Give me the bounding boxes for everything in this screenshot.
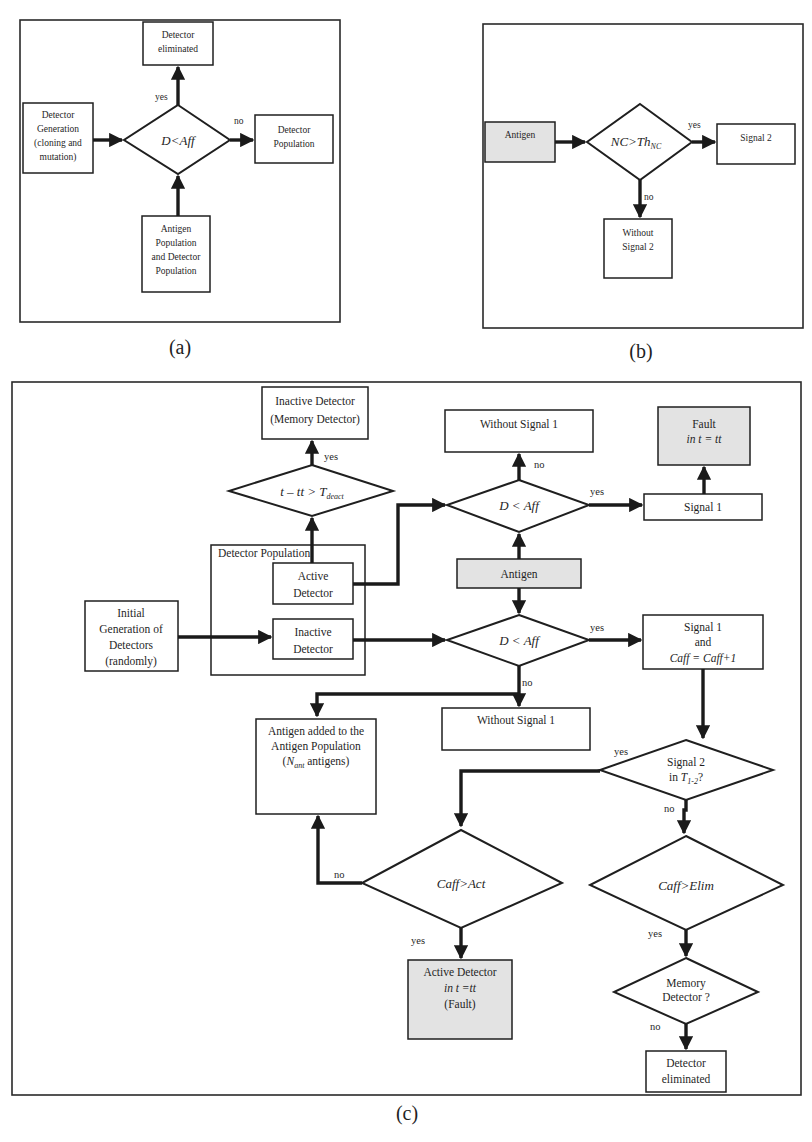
a-antigen-line4: Population [155,266,196,276]
c-caff-act-no-label: no [334,869,345,880]
c-daff-bottom-label: D < Aff [498,633,541,648]
c-without-signal1-top-box [445,410,593,452]
c-daff-top-label: D < Aff [498,498,541,513]
c-daff-top-no-label: no [534,459,545,470]
panel-a: Detector eliminated Detector Generation … [20,20,340,359]
c-initial-line1: Initial [117,607,144,619]
c-caff-elim-label: Caff>Elim [658,878,714,893]
c-initial-line2: Generation of [99,623,163,635]
figure-canvas: Detector eliminated Detector Generation … [0,0,812,1142]
panel-c: Inactive Detector (Memory Detector) t – … [12,382,801,1125]
b-no-label: no [644,192,654,202]
c-active-fault-line3: (Fault) [444,998,475,1011]
c-initial-line4: (randomly) [105,655,157,668]
a-population-line1: Detector [278,125,312,135]
c-antigen-added-line2: Antigen Population [271,740,361,753]
c-deact-yes-label: yes [324,451,338,462]
c-fault-line1: Fault [692,418,716,430]
c-eliminated-line1: Detector [666,1057,706,1069]
c-signal2-yes-label: yes [614,746,628,757]
c-daff-top-yes-label: yes [590,486,604,497]
c-caff-elim-yes-label: yes [648,928,662,939]
a-generation-line1: Detector [42,110,76,120]
c-inactive-memory-line2: (Memory Detector) [270,413,360,426]
c-inactive-memory-line1: Inactive Detector [275,395,355,407]
c-caff-act-label: Caff>Act [437,876,486,891]
a-decision-label: D<Aff [160,133,197,148]
b-yes-label: yes [688,120,701,130]
c-antigen-added-line1: Antigen added to the [268,725,364,738]
c-active-fault-line2: in t =tt [444,982,477,994]
c-eliminated-line2: eliminated [662,1073,711,1085]
c-active-detector-line1: Active [298,570,329,582]
a-generation-line3: (cloning and [34,138,82,149]
c-active-fault-line1: Active Detector [423,966,496,978]
c-active-detector-line2: Detector [293,587,333,599]
c-signal1-caff-line2: and [695,636,712,648]
b-caption: (b) [629,340,652,363]
c-signal2-no-label: no [664,803,675,814]
c-arrow-signal2-no [684,800,686,833]
c-without-signal1-top-label: Without Signal 1 [480,418,558,431]
b-antigen-box [485,122,555,162]
c-caff-act-yes-label: yes [411,935,425,946]
a-no-label: no [234,116,244,126]
a-antigen-line2: Population [155,238,196,248]
c-initial-line3: Detectors [109,639,154,651]
c-memory-line1: Memory [666,977,706,990]
c-arrow-active-to-daff-top [353,505,445,584]
a-eliminated-line1: Detector [162,30,196,40]
c-signal1-caff-line1: Signal 1 [684,621,722,634]
b-without-line1: Without [623,228,654,238]
c-signal2-line1: Signal 2 [667,756,705,769]
b-signal2-label: Signal 2 [740,133,772,143]
c-signal1-label: Signal 1 [684,501,722,514]
c-memory-no-label: no [650,1021,661,1032]
c-memory-line2: Detector ? [662,991,710,1003]
c-inactive-detector-line1: Inactive [294,626,331,638]
c-signal1-caff-line3: Caff = Caff+1 [670,652,737,665]
c-inactive-detector-line2: Detector [293,643,333,655]
b-signal2-box [717,124,795,164]
c-daff-bottom-yes-label: yes [590,622,604,633]
c-arrow-signal2-yes [461,771,600,826]
c-detector-population-label: Detector Population [218,547,311,560]
panel-b: Antigen NC>ThNC Signal 2 Without Signal … [483,24,803,363]
a-eliminated-line2: eliminated [158,44,198,54]
c-fault-line2: in t = tt [687,433,723,445]
b-antigen-label: Antigen [505,130,536,140]
c-caption: (c) [396,1102,418,1125]
c-daff-bottom-no-label: no [522,677,533,688]
a-population-line2: Population [273,139,314,149]
a-antigen-line3: and Detector [152,252,202,262]
a-caption: (a) [169,336,191,359]
a-generation-line2: Generation [37,124,79,134]
a-yes-label: yes [155,92,168,102]
c-antigen-label: Antigen [500,568,537,581]
c-without-signal1-bottom-label: Without Signal 1 [477,714,555,727]
a-generation-line4: mutation) [40,152,77,163]
a-antigen-line1: Antigen [161,224,192,234]
b-without-line2: Signal 2 [622,242,654,252]
